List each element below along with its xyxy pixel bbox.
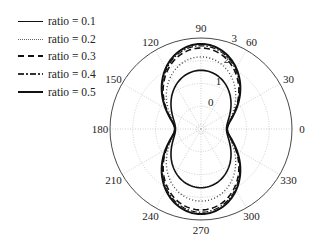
polar-grid xyxy=(110,38,292,220)
legend-item-ratio-0-2: ratio = 0.2 xyxy=(18,32,96,46)
dotted-line-icon xyxy=(18,39,43,40)
radial-tick-label: 1 xyxy=(216,75,222,87)
angle-tick-label: 300 xyxy=(243,210,260,222)
angle-tick-label: 180 xyxy=(92,123,109,135)
radial-tick-label: 0 xyxy=(208,96,214,108)
angle-tick-label: 270 xyxy=(193,224,210,236)
dashdot-line-icon xyxy=(18,73,43,74)
legend-label: ratio = 0.5 xyxy=(48,86,96,98)
angle-tick-label: 60 xyxy=(246,36,258,48)
radial-tick-labels: 0123 xyxy=(208,32,237,108)
legend-item-ratio-0-5: ratio = 0.5 xyxy=(18,85,96,99)
legend-item-ratio-0-3: ratio = 0.3 xyxy=(18,49,96,63)
angle-tick-label: 210 xyxy=(105,174,122,186)
radial-tick-label: 3 xyxy=(231,32,237,44)
radial-tick-label: 2 xyxy=(224,53,230,65)
solid-line-icon xyxy=(18,91,43,93)
dashed-line-icon xyxy=(18,55,43,57)
solid-line-icon xyxy=(18,21,43,22)
legend-item-ratio-0-1: ratio = 0.1 xyxy=(18,14,96,28)
angle-tick-label: 150 xyxy=(105,73,122,85)
legend-item-ratio-0-4: ratio = 0.4 xyxy=(18,67,96,81)
angle-tick-label: 0 xyxy=(299,123,305,135)
legend-label: ratio = 0.2 xyxy=(48,33,96,45)
angle-tick-label: 30 xyxy=(283,73,295,85)
legend-label: ratio = 0.3 xyxy=(48,50,96,62)
angle-tick-label: 330 xyxy=(280,174,297,186)
legend-label: ratio = 0.1 xyxy=(48,15,96,27)
angle-tick-label: 240 xyxy=(142,210,159,222)
angle-tick-label: 120 xyxy=(142,36,159,48)
legend-label: ratio = 0.4 xyxy=(48,68,96,80)
angle-tick-label: 90 xyxy=(196,22,208,34)
